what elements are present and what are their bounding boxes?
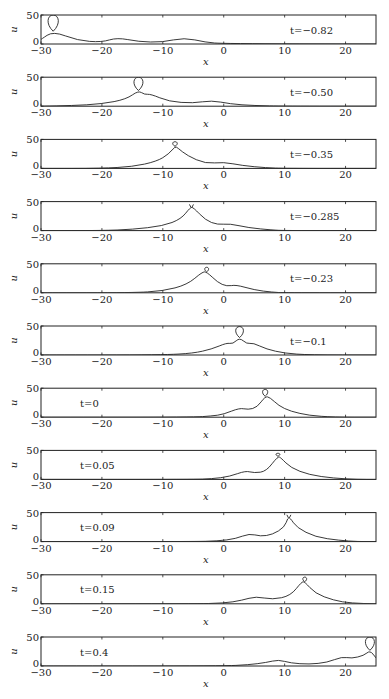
loop-soliton — [263, 389, 268, 396]
time-label: t=0 — [80, 398, 99, 409]
loop-soliton — [236, 327, 244, 338]
x-tick-label: −10 — [152, 294, 173, 305]
y-tick-label: 50 — [26, 445, 39, 456]
time-label: t=−0.23 — [290, 273, 333, 284]
x-tick-label: −10 — [152, 169, 173, 180]
x-tick-label: −20 — [91, 605, 112, 616]
loop-soliton — [365, 637, 374, 650]
y-axis-label: u — [8, 26, 19, 32]
subplot: −30−20−1001020050uxt=−0.50 — [8, 72, 376, 129]
loop-soliton — [303, 577, 307, 582]
subplot: −30−20−1001020050uxt=−0.285 — [8, 197, 376, 254]
y-tick-label: 0 — [33, 658, 39, 669]
y-axis-label: u — [8, 213, 19, 219]
x-tick-label: 10 — [278, 543, 291, 554]
time-label: t=−0.35 — [290, 149, 333, 160]
y-tick-label: 50 — [26, 570, 39, 581]
subplot: −30−20−1001020050uxt=0.05 — [8, 445, 376, 502]
x-axis-label: x — [203, 243, 209, 254]
y-tick-label: 50 — [26, 197, 39, 208]
x-axis-label: x — [203, 616, 209, 627]
subplot: −30−20−1001020050uxt=0.09 — [8, 508, 376, 565]
x-tick-label: 0 — [221, 605, 227, 616]
x-tick-label: −10 — [152, 667, 173, 678]
x-tick-label: −10 — [152, 418, 173, 429]
x-tick-label: −20 — [91, 543, 112, 554]
y-tick-label: 50 — [26, 259, 39, 270]
x-axis-label: x — [203, 56, 209, 67]
y-tick-label: 0 — [33, 471, 39, 482]
y-tick-label: 50 — [26, 508, 39, 519]
x-tick-label: 20 — [339, 169, 352, 180]
time-label: t=−0.285 — [290, 211, 339, 222]
x-tick-label: 20 — [339, 418, 352, 429]
y-axis-label: u — [8, 399, 19, 405]
x-tick-label: −20 — [91, 480, 112, 491]
x-tick-label: −10 — [152, 107, 173, 118]
y-axis-label: u — [8, 337, 19, 343]
subplot: −30−20−1001020050uxt=0.15 — [8, 570, 376, 627]
x-tick-label: 20 — [339, 356, 352, 367]
subplot: −30−20−1001020050uxt=−0.23 — [8, 259, 376, 316]
x-tick-label: −20 — [91, 232, 112, 243]
loop-soliton — [173, 142, 177, 147]
x-tick-label: 0 — [221, 45, 227, 56]
x-axis-label: x — [203, 429, 209, 440]
subplot: −30−20−1001020050uxt=0.4 — [8, 632, 376, 689]
y-tick-label: 0 — [33, 409, 39, 420]
y-tick-label: 0 — [33, 36, 39, 47]
y-tick-label: 0 — [33, 98, 39, 109]
x-tick-label: 20 — [339, 543, 352, 554]
x-tick-label: 20 — [339, 45, 352, 56]
x-tick-label: −10 — [152, 232, 173, 243]
x-tick-label: 20 — [339, 605, 352, 616]
x-tick-label: 0 — [221, 294, 227, 305]
x-tick-label: 20 — [339, 667, 352, 678]
y-tick-label: 50 — [26, 134, 39, 145]
y-tick-label: 50 — [26, 632, 39, 643]
y-axis-label: u — [8, 275, 19, 281]
x-tick-label: −10 — [152, 480, 173, 491]
x-tick-label: 20 — [339, 107, 352, 118]
loop-soliton — [276, 453, 280, 456]
figure: −30−20−1001020050uxt=−0.82−30−20−1001020… — [0, 0, 389, 699]
subplot: −30−20−1001020050uxt=−0.1 — [8, 321, 376, 378]
x-tick-label: −20 — [91, 169, 112, 180]
y-tick-label: 50 — [26, 321, 39, 332]
time-label: t=−0.82 — [290, 25, 333, 36]
y-tick-label: 0 — [33, 223, 39, 234]
y-tick-label: 50 — [26, 72, 39, 83]
x-tick-label: 0 — [221, 232, 227, 243]
loop-soliton — [134, 77, 143, 90]
y-tick-label: 0 — [33, 160, 39, 171]
x-tick-label: 20 — [339, 480, 352, 491]
x-tick-label: 10 — [278, 107, 291, 118]
y-tick-label: 0 — [33, 596, 39, 607]
y-tick-label: 50 — [26, 10, 39, 21]
x-axis-label: x — [203, 305, 209, 316]
x-tick-label: 20 — [339, 232, 352, 243]
subplot: −30−20−1001020050uxt=−0.35 — [8, 134, 376, 191]
x-tick-label: 0 — [221, 543, 227, 554]
x-tick-label: −10 — [152, 605, 173, 616]
y-axis-label: u — [8, 88, 19, 94]
time-label: t=−0.1 — [290, 336, 327, 347]
x-tick-label: −20 — [91, 294, 112, 305]
x-tick-label: 0 — [221, 169, 227, 180]
subplot: −30−20−1001020050uxt=0 — [8, 383, 376, 440]
x-tick-label: 20 — [339, 294, 352, 305]
y-tick-label: 50 — [26, 383, 39, 394]
x-tick-label: 10 — [278, 169, 291, 180]
time-label: t=−0.50 — [290, 87, 333, 98]
loop-soliton — [205, 267, 209, 272]
y-tick-label: 0 — [33, 347, 39, 358]
x-axis-label: x — [203, 678, 209, 689]
x-axis-label: x — [203, 180, 209, 191]
x-axis-label: x — [203, 491, 209, 502]
x-tick-label: 0 — [221, 107, 227, 118]
y-tick-label: 0 — [33, 285, 39, 296]
x-tick-label: −10 — [152, 543, 173, 554]
x-tick-label: 0 — [221, 418, 227, 429]
y-axis-label: u — [8, 151, 19, 157]
x-tick-label: 10 — [278, 418, 291, 429]
